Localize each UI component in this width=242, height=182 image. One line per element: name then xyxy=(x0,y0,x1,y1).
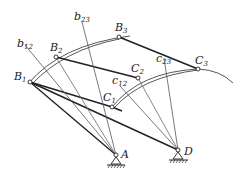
joint-c3 xyxy=(196,67,200,71)
joint-c1 xyxy=(110,105,114,109)
joint-c2 xyxy=(136,76,140,80)
linkage-diagram: B1 B2 B3 C1 C2 C3 A D b12 b23 c12 c23 xyxy=(0,0,242,182)
label-d: D xyxy=(183,145,193,158)
label-b1: B1 xyxy=(13,70,27,84)
bisector-c12 xyxy=(120,86,178,150)
joint-b2 xyxy=(54,55,58,59)
label-c2: C2 xyxy=(131,62,144,76)
label-b3: B3 xyxy=(114,21,128,35)
label-c1: C1 xyxy=(103,91,116,105)
label-b2: B2 xyxy=(49,41,63,55)
joint-b1 xyxy=(28,80,32,84)
label-a: A xyxy=(120,148,129,161)
diagram-canvas: B1 B2 B3 C1 C2 C3 A D b12 b23 c12 c23 xyxy=(0,0,242,182)
label-b12: b12 xyxy=(17,37,34,51)
joint-b3 xyxy=(117,35,121,39)
label-b23: b23 xyxy=(74,10,91,24)
label-c3: C3 xyxy=(195,54,208,68)
link-c2d xyxy=(138,78,178,150)
link-b1c1 xyxy=(30,82,112,107)
label-c12: c12 xyxy=(112,74,128,88)
label-c23: c23 xyxy=(156,52,172,66)
link-b2c2 xyxy=(56,57,138,78)
